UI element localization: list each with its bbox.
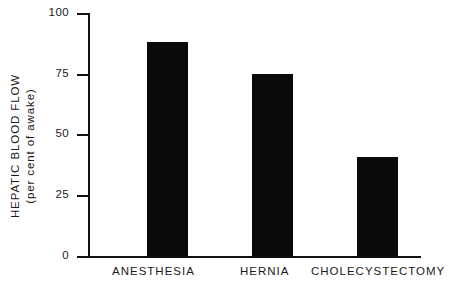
x-axis-label-cholecystectomy: CHOLECYSTECTOMY [311, 265, 445, 277]
y-tick-mark-75 [77, 74, 89, 76]
plot-area: 100 75 50 25 0 ANESTHESIA HERNIA CHOLECY… [0, 0, 449, 292]
y-tick-label-75: 75 [29, 67, 69, 79]
bar-hernia [252, 74, 293, 257]
y-tick-mark-50 [77, 134, 89, 136]
y-tick-label-100: 100 [29, 6, 69, 18]
y-tick-label-0: 0 [29, 249, 69, 261]
y-tick-label-50: 50 [29, 127, 69, 139]
bar-anesthesia [147, 42, 188, 257]
x-axis-label-hernia: HERNIA [240, 265, 289, 277]
y-tick-mark-100 [77, 13, 89, 15]
y-tick-label-25: 25 [29, 188, 69, 200]
y-tick-mark-25 [77, 195, 89, 197]
x-axis-label-anesthesia: ANESTHESIA [112, 265, 195, 277]
bar-cholecystectomy [357, 157, 398, 257]
y-tick-mark-0 [77, 256, 89, 258]
chart-figure: HEPATIC BLOOD FLOW (per cent of awake) 1… [0, 0, 449, 292]
